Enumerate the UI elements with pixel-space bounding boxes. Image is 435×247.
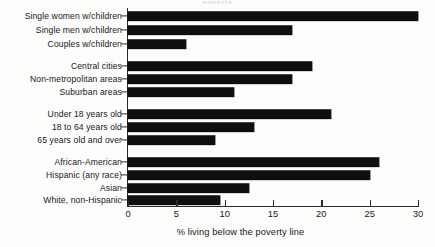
- bar: [128, 171, 370, 180]
- category-tick-mark: [121, 65, 127, 66]
- bar: [128, 88, 234, 97]
- x-axis-tick-label: 0: [125, 209, 130, 218]
- bar: [128, 12, 418, 21]
- x-axis-title: % living below the poverty line: [0, 227, 435, 237]
- x-axis-tick-mark: [176, 200, 177, 207]
- category-tick-mark: [121, 126, 127, 127]
- x-axis-tick-mark: [225, 200, 226, 207]
- bar-row-label: Hispanic (any race): [46, 171, 122, 180]
- bar-row-label: Asian: [100, 184, 122, 193]
- category-tick-mark: [121, 187, 127, 188]
- category-tick-mark: [121, 161, 127, 162]
- x-axis-tick-label: 15: [268, 209, 278, 218]
- bar: [128, 110, 331, 119]
- category-tick-mark: [121, 15, 127, 16]
- bar-row-label: Single women w/children: [25, 12, 122, 21]
- bar-row: Single women w/children: [0, 10, 435, 23]
- bar-row-label: Non-metropolitan areas: [30, 75, 122, 84]
- category-tick-mark: [121, 139, 127, 140]
- x-axis-tick-label: 20: [316, 209, 326, 218]
- bar-row-label: Suburban areas: [59, 88, 122, 97]
- bar: [128, 123, 254, 132]
- x-axis-tick-mark: [273, 200, 274, 207]
- bar-row: Single men w/children: [0, 24, 435, 37]
- bar: [128, 136, 215, 145]
- plot-area: poverty Single women w/childrenSingle me…: [0, 0, 435, 247]
- bar-row-label: Under 18 years old: [48, 110, 122, 119]
- bar: [128, 158, 379, 167]
- category-tick-mark: [121, 78, 127, 79]
- x-axis-title-text: % living below the poverty line: [177, 227, 305, 237]
- bar-row-label: Single men w/children: [36, 26, 122, 35]
- x-axis-tick-label: 5: [174, 209, 179, 218]
- bar-row: Hispanic (any race): [0, 169, 435, 182]
- category-tick-mark: [121, 91, 127, 92]
- x-axis-tick-label: 10: [219, 209, 229, 218]
- category-tick-mark: [121, 113, 127, 114]
- bar-row: Couples w/children: [0, 38, 435, 51]
- bar-row: Suburban areas: [0, 86, 435, 99]
- bar-row: 65 years old and over: [0, 134, 435, 147]
- bar-row-label: 18 to 64 years old: [52, 123, 122, 132]
- bar: [128, 196, 220, 205]
- x-axis-tick-mark: [370, 200, 371, 207]
- bar-row: Under 18 years old: [0, 108, 435, 121]
- x-axis-tick-mark: [128, 200, 129, 207]
- x-axis-tick-label: 30: [413, 209, 423, 218]
- bar-row: African-American: [0, 156, 435, 169]
- bar-row: 18 to 64 years old: [0, 121, 435, 134]
- x-axis-tick-mark: [321, 200, 322, 207]
- x-axis-tick-label: 25: [364, 209, 374, 218]
- category-tick-mark: [121, 29, 127, 30]
- poverty-bar-chart-figure: poverty Single women w/childrenSingle me…: [0, 0, 435, 247]
- bar-row-label: 65 years old and over: [37, 136, 122, 145]
- bar: [128, 184, 249, 193]
- bar-row-label: Central cities: [71, 62, 122, 71]
- bar: [128, 26, 292, 35]
- bar-row: Central cities: [0, 60, 435, 73]
- bar-row-label: Couples w/children: [48, 40, 122, 49]
- x-axis-tick-mark: [418, 200, 419, 207]
- bar-row: Non-metropolitan areas: [0, 73, 435, 86]
- bar: [128, 40, 186, 49]
- bar: [128, 62, 312, 71]
- category-tick-mark: [121, 199, 127, 200]
- category-tick-mark: [121, 174, 127, 175]
- bar-row-label: African-American: [54, 158, 122, 167]
- bar-row-label: White, non-Hispanic: [43, 196, 122, 205]
- bar-rows-container: Single women w/childrenSingle men w/chil…: [0, 0, 435, 207]
- category-tick-mark: [121, 43, 127, 44]
- bar: [128, 75, 292, 84]
